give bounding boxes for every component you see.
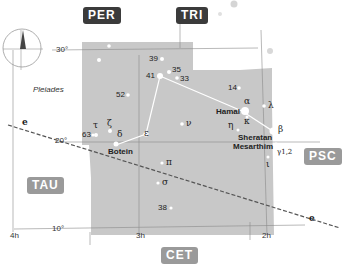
star-label-epsilon: ε: [144, 129, 149, 138]
ra-2h-label: 2h: [262, 232, 271, 240]
dec-30-label: 30°: [56, 46, 68, 54]
star-label-zeta: ζ: [107, 119, 112, 128]
star-label-hamal: Hamal: [216, 108, 240, 116]
star-label-alpha: α: [244, 97, 250, 106]
star-label-lambda: λ: [268, 101, 274, 110]
star-label-kappa: κ: [244, 117, 250, 126]
star-label-delta: δ: [117, 130, 122, 139]
faint-star: [267, 48, 273, 54]
star-label-pi: π: [166, 158, 172, 167]
star-label-39: 39: [149, 55, 158, 63]
star-label-nu: ν: [186, 119, 191, 128]
star-label-35: 35: [172, 66, 181, 74]
ecliptic-label-right: e: [309, 214, 315, 223]
star-label-33: 33: [180, 75, 189, 83]
star-label-63: 63: [82, 131, 91, 139]
dec-20-label: 20°: [55, 137, 67, 145]
pleiades-label: Pleiades: [33, 86, 64, 94]
star-label-52: 52: [116, 91, 125, 99]
star-label-eta: η: [228, 121, 233, 130]
faint-star: [218, 12, 222, 16]
star-label-gamma: γ1,2: [277, 149, 292, 156]
star-label-41: 41: [146, 72, 155, 80]
star-label-beta: β: [278, 125, 283, 134]
star-label-sigma: σ: [162, 178, 168, 187]
ra-3h-label: 3h: [136, 232, 145, 240]
badge-tri: TRI: [176, 7, 208, 24]
dec-10-label: 10°: [52, 225, 64, 233]
star-label-tau: τ: [93, 121, 98, 130]
star-label-iota: ι: [266, 160, 270, 169]
ra-4h-label: 4h: [10, 232, 19, 240]
compass-icon: [3, 29, 43, 70]
star-label-sheratan: Sheratan: [238, 134, 272, 142]
star-label-38: 38: [158, 204, 167, 212]
badge-tau: TAU: [27, 177, 64, 194]
badge-per: PER: [83, 7, 121, 24]
badge-psc: PSC: [304, 148, 342, 165]
faint-star: [231, 1, 238, 8]
star-label-botein: Botein: [108, 148, 133, 156]
badge-cet: CET: [161, 247, 198, 264]
ecliptic-label-left: e: [22, 118, 28, 127]
star-label-mesarthim: Mesarthim: [233, 143, 273, 151]
star-label-14: 14: [228, 84, 237, 92]
